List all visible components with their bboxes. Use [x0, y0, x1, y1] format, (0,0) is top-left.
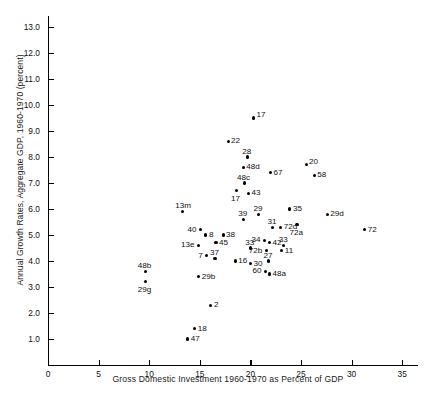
- data-point: [288, 207, 291, 210]
- y-tick-label: 13.0: [10, 23, 40, 32]
- x-tick: [301, 360, 302, 365]
- scatter-plot-figure: Annual Growth Rates, Aggregate GDP, 1960…: [0, 0, 424, 394]
- y-tick-label: 5.0: [10, 231, 40, 240]
- data-point-label: 22: [231, 136, 240, 145]
- data-point-label: 28: [242, 147, 251, 156]
- x-tick-label: 30: [339, 369, 365, 379]
- y-tick: [49, 339, 54, 340]
- data-point: [197, 275, 200, 278]
- data-point: [267, 259, 270, 262]
- data-point-label: 29: [253, 204, 262, 213]
- data-point: [197, 244, 200, 247]
- data-point-label: 48d: [246, 162, 260, 171]
- data-point-label: 72d: [284, 222, 298, 231]
- x-axis-line: [48, 365, 418, 366]
- data-point-label: 11: [285, 246, 293, 255]
- data-point: [193, 327, 196, 330]
- x-tick-label: 15: [187, 369, 213, 379]
- x-tick: [99, 360, 100, 365]
- data-point-label: 72: [368, 225, 377, 234]
- y-tick: [49, 79, 54, 80]
- data-point-label: 20: [309, 157, 318, 166]
- y-tick: [49, 287, 54, 288]
- y-tick-label: 7.0: [10, 179, 40, 188]
- data-point-label: 18: [198, 324, 207, 333]
- data-point: [271, 226, 274, 229]
- data-point-label: 45: [219, 238, 228, 247]
- data-point-label: 48b: [138, 261, 152, 270]
- data-point-label: 29d: [330, 209, 344, 218]
- data-point: [234, 259, 237, 262]
- data-point: [247, 192, 250, 195]
- x-tick: [402, 360, 403, 365]
- y-tick: [49, 105, 54, 106]
- data-point: [204, 233, 207, 236]
- x-tick: [149, 360, 150, 365]
- data-point: [305, 163, 308, 166]
- data-point-label: 13e: [181, 240, 195, 249]
- data-point: [313, 174, 316, 177]
- data-point: [235, 189, 238, 192]
- data-point-label: 17: [256, 110, 265, 119]
- data-point: [326, 213, 329, 216]
- data-point-label: 17: [231, 194, 240, 203]
- data-point-label: 16: [238, 256, 247, 265]
- data-point: [214, 241, 217, 244]
- y-tick: [49, 53, 54, 54]
- y-tick-label: 10.0: [10, 101, 40, 110]
- data-point-label: 37: [210, 248, 219, 257]
- data-point-label: 29b: [202, 272, 216, 281]
- y-tick-label: 4.0: [10, 257, 40, 266]
- y-tick-label: 9.0: [10, 127, 40, 136]
- data-point-label: 67: [274, 168, 283, 177]
- data-point: [209, 304, 212, 307]
- y-tick-label: 8.0: [10, 153, 40, 162]
- data-point: [144, 270, 147, 273]
- y-tick: [49, 183, 54, 184]
- data-point: [144, 280, 147, 283]
- data-point-label: 58: [317, 170, 326, 179]
- x-tick-label: 5: [86, 369, 112, 379]
- data-point: [268, 241, 271, 244]
- data-point: [205, 254, 208, 257]
- data-point-label: 2: [214, 300, 219, 309]
- data-point: [249, 262, 252, 265]
- x-tick: [48, 360, 49, 365]
- data-point-label: 8: [209, 230, 214, 239]
- data-point: [243, 181, 246, 184]
- y-tick: [49, 209, 54, 210]
- data-point: [279, 226, 282, 229]
- y-tick: [49, 131, 54, 132]
- data-point-label: 48c: [237, 173, 250, 182]
- data-point: [363, 228, 366, 231]
- data-point-label: 33: [279, 235, 288, 244]
- data-point-label: 47: [191, 334, 200, 343]
- data-point-label: 43: [251, 188, 260, 197]
- x-tick-label: 10: [136, 369, 162, 379]
- data-point-label: 7: [198, 251, 203, 260]
- x-tick-label: 20: [237, 369, 263, 379]
- x-tick-label: 35: [389, 369, 415, 379]
- data-point: [269, 171, 272, 174]
- data-point: [280, 249, 283, 252]
- data-point-label: 27: [264, 251, 273, 260]
- y-tick-label: 1.0: [10, 335, 40, 344]
- data-point-label: 31: [268, 217, 277, 226]
- x-tick: [352, 360, 353, 365]
- y-tick: [49, 157, 54, 158]
- data-point: [227, 140, 230, 143]
- y-tick-label: 2.0: [10, 309, 40, 318]
- data-point: [181, 210, 184, 213]
- y-tick: [49, 261, 54, 262]
- y-tick-label: 11.0: [10, 75, 40, 84]
- data-point: [268, 272, 271, 275]
- data-point: [264, 270, 267, 273]
- x-tick-label: 25: [288, 369, 314, 379]
- data-point: [222, 233, 225, 236]
- data-point: [252, 116, 255, 119]
- data-point: [242, 166, 245, 169]
- y-tick-label: 6.0: [10, 205, 40, 214]
- y-tick: [49, 313, 54, 314]
- data-point-label: 40: [188, 225, 197, 234]
- data-point: [199, 228, 202, 231]
